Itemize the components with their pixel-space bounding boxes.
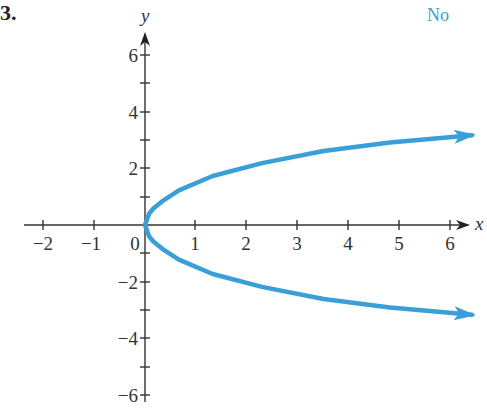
x-tick-label: −1 — [81, 233, 101, 254]
y-tick-label: 6 — [129, 45, 139, 66]
x-tick-label: 5 — [394, 233, 404, 254]
x-tick-label: 1 — [190, 233, 200, 254]
x-axis-label: x — [474, 213, 484, 234]
y-tick-label: −2 — [118, 272, 138, 293]
curve-upper-branch — [145, 135, 472, 225]
x-tick-label: 0 — [130, 233, 140, 254]
x-tick-label: 4 — [343, 233, 353, 254]
x-tick-label: 3 — [292, 233, 302, 254]
y-axis-label: y — [139, 5, 150, 26]
x-tick-label: −2 — [33, 233, 53, 254]
y-tick-label: −6 — [118, 385, 138, 406]
y-tick-label: 4 — [129, 102, 139, 123]
x-tick-label: 6 — [445, 233, 455, 254]
y-tick-label: −4 — [118, 328, 139, 349]
graph: −2 −1 0 1 2 3 4 5 6 6 4 2 −2 −4 −6 x y — [0, 0, 487, 420]
y-tick-label: 2 — [129, 158, 139, 179]
x-tick-label: 2 — [241, 233, 251, 254]
